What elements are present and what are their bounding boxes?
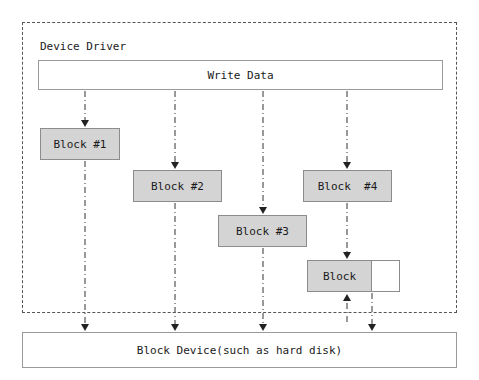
diagram-canvas: Device Driver Write Data Block #1 Block … xyxy=(0,0,479,380)
connector-arrowhead xyxy=(171,324,179,331)
write-data-box: Write Data xyxy=(38,60,443,90)
device-driver-label: Device Driver xyxy=(40,40,126,53)
block-2-box: Block #2 xyxy=(133,170,222,202)
block-1-box: Block #1 xyxy=(40,128,120,160)
block-partial-box: Block xyxy=(307,260,372,292)
block-device-box: Block Device(such as hard disk) xyxy=(22,332,457,368)
connector-arrowhead xyxy=(81,324,89,331)
connector-arrowhead xyxy=(259,324,267,331)
block-4-box: Block #4 xyxy=(303,170,392,202)
connector-arrowhead xyxy=(368,324,376,331)
block-partial-empty-tail xyxy=(372,260,400,292)
block-3-box: Block #3 xyxy=(218,215,307,247)
